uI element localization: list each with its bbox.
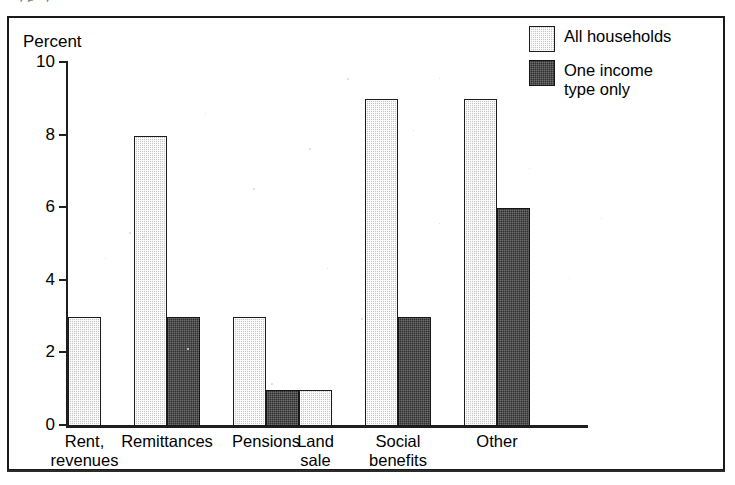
legend-swatch-light — [529, 26, 555, 52]
legend-item: All households — [529, 26, 711, 52]
y-axis-tick-label: 6 — [9, 198, 55, 215]
bar-all-households — [365, 99, 398, 426]
y-axis-tick-label: 0 — [9, 416, 55, 433]
bar-one-income-type-only — [266, 390, 299, 426]
y-axis-tick-label: 4 — [9, 271, 55, 288]
bars-layer — [68, 62, 588, 426]
bar-all-households — [134, 136, 167, 426]
y-axis-tick — [59, 206, 68, 208]
y-axis-tick — [59, 351, 68, 353]
y-axis-tick — [59, 61, 68, 63]
scan-speckle — [601, 218, 602, 219]
legend-item: One income type only — [529, 60, 711, 99]
legend-label: One income type only — [564, 60, 653, 99]
bar-one-income-type-only — [167, 317, 200, 426]
bar-all-households — [68, 317, 101, 426]
y-axis-tick-label: 10 — [9, 53, 55, 70]
chart-plot-area: Percent 0246810 Rent, revenuesRemittance… — [9, 18, 723, 469]
bar-all-households — [299, 390, 332, 426]
x-axis-category-label: Other — [437, 432, 557, 451]
chart-legend: All householdsOne income type only — [529, 26, 711, 107]
y-axis-tick-label: 2 — [9, 343, 55, 360]
bar-one-income-type-only — [398, 317, 431, 426]
y-axis-tick — [59, 424, 68, 426]
bar-one-income-type-only — [497, 208, 530, 426]
legend-swatch-dark — [529, 60, 555, 86]
y-axis-tick — [59, 134, 68, 136]
y-axis-title: Percent — [23, 32, 82, 51]
figure-frame: Percent 0246810 Rent, revenuesRemittance… — [7, 16, 725, 471]
bar-all-households — [233, 317, 266, 426]
bar-all-households — [464, 99, 497, 426]
y-axis-tick — [59, 279, 68, 281]
scan-caption-remnant: yp y — [18, 0, 218, 2]
legend-label: All households — [564, 26, 671, 46]
y-axis-tick-label: 8 — [9, 126, 55, 143]
